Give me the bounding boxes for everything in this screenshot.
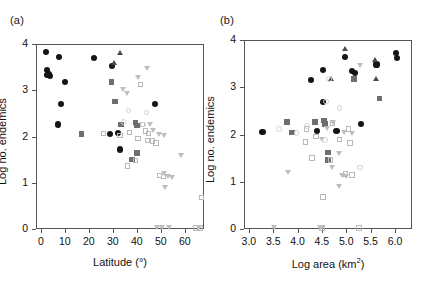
data-point-filled-square	[377, 96, 383, 102]
y-axis-tick	[32, 183, 36, 184]
y-axis-tick-label: 4	[6, 37, 28, 49]
x-axis-title: Log area (km2)	[280, 256, 376, 270]
data-point-filled-square	[312, 119, 318, 125]
data-point-open-circle	[323, 99, 329, 105]
x-axis-tick-label: 6.0	[379, 235, 411, 247]
data-point-open-triangle	[159, 225, 165, 230]
data-point-open-square	[347, 140, 352, 145]
data-point-open-triangle	[178, 153, 184, 158]
data-point-open-triangle	[162, 185, 168, 190]
data-point-open-square	[101, 131, 106, 136]
y-axis-tick	[240, 87, 244, 88]
y-axis-title: Log no. endemics	[204, 96, 216, 183]
y-axis-tick-label: 3	[214, 80, 236, 92]
y-axis-tick	[32, 137, 36, 138]
data-point-open-triangle	[336, 151, 342, 156]
data-point-open-square	[133, 158, 138, 163]
y-axis-tick-label: 4	[214, 33, 236, 45]
data-point-filled-circle	[44, 72, 50, 78]
data-point-filled-circle	[373, 61, 379, 67]
x-axis-tick	[65, 229, 66, 233]
y-axis-tick	[240, 135, 244, 136]
y-axis-tick	[240, 40, 244, 41]
data-point-open-square	[337, 137, 342, 142]
y-axis-tick-label: 0	[6, 222, 28, 234]
data-point-open-triangle	[330, 120, 336, 125]
x-axis-tick	[249, 229, 250, 233]
x-axis-tick	[113, 229, 114, 233]
data-point-filled-circle	[91, 55, 97, 61]
data-point-filled-triangle	[372, 57, 378, 62]
data-point-open-triangle	[271, 225, 277, 230]
data-point-filled-circle	[55, 121, 61, 127]
y-axis-tick	[32, 44, 36, 45]
data-point-open-triangle	[341, 130, 347, 135]
data-point-open-square	[313, 134, 318, 139]
data-point-filled-square	[79, 131, 85, 137]
y-axis-tick	[240, 182, 244, 183]
data-point-open-triangle	[166, 225, 172, 230]
x-axis-tick	[185, 229, 186, 233]
data-point-filled-circle	[333, 128, 339, 134]
data-point-filled-square	[112, 99, 118, 105]
data-point-open-triangle	[324, 126, 330, 131]
data-point-open-triangle	[319, 225, 325, 230]
data-point-filled-square	[134, 123, 140, 129]
data-point-open-circle	[322, 137, 328, 143]
data-point-open-square	[138, 82, 143, 87]
x-axis-tick	[41, 229, 42, 233]
data-point-filled-triangle	[117, 50, 123, 55]
data-point-filled-square	[109, 79, 115, 85]
y-axis-tick-label: 1	[214, 175, 236, 187]
data-point-filled-triangle	[373, 76, 379, 81]
data-point-filled-circle	[152, 101, 158, 107]
panel-b-label: (b)	[220, 14, 234, 26]
data-point-open-triangle	[336, 184, 342, 189]
x-axis-tick	[371, 229, 372, 233]
data-point-open-triangle	[357, 63, 363, 68]
x-axis-tick	[137, 229, 138, 233]
data-point-open-triangle	[196, 225, 202, 230]
data-point-open-square	[125, 163, 130, 168]
y-axis-tick-label: 3	[6, 83, 28, 95]
data-point-open-circle	[276, 126, 282, 132]
data-point-open-square	[303, 139, 308, 144]
data-point-filled-circle	[394, 55, 400, 61]
y-axis-tick	[240, 229, 244, 230]
y-axis-tick	[32, 229, 36, 230]
panel-b: (b) 012343.03.54.04.55.05.56.0Log area (…	[212, 0, 425, 306]
data-point-filled-square	[134, 150, 140, 156]
x-axis-tick	[346, 229, 347, 233]
data-point-open-square	[127, 130, 132, 135]
data-point-open-square	[356, 225, 361, 230]
data-point-open-triangle	[161, 133, 167, 138]
data-point-open-square	[349, 172, 354, 177]
x-axis-tick	[395, 229, 396, 233]
data-point-open-circle	[121, 119, 127, 125]
data-point-open-square	[117, 133, 122, 138]
data-point-open-circle	[140, 122, 146, 128]
data-point-filled-square	[284, 119, 290, 125]
data-point-open-circle	[337, 105, 343, 111]
data-point-open-triangle	[169, 175, 175, 180]
data-point-filled-circle	[308, 77, 314, 83]
y-axis-tick-label: 0	[214, 222, 236, 234]
data-point-open-triangle	[147, 122, 153, 127]
figure-container: (a) 012340102030405060Latitude (°)Log no…	[0, 0, 425, 306]
data-point-filled-square	[351, 76, 357, 82]
x-axis-title: Latitude (°)	[72, 256, 168, 268]
data-point-open-square	[328, 157, 333, 162]
data-point-open-square	[309, 155, 314, 160]
x-axis-tick	[89, 229, 90, 233]
data-point-open-square	[135, 136, 140, 141]
y-axis-title: Log no. endemics	[0, 98, 8, 185]
y-axis-tick	[32, 90, 36, 91]
data-point-open-triangle	[135, 75, 141, 80]
data-point-filled-circle	[117, 146, 123, 152]
data-point-filled-circle	[62, 79, 68, 85]
data-point-open-square	[320, 194, 325, 199]
data-point-filled-square	[325, 150, 331, 156]
data-point-open-triangle	[349, 131, 355, 136]
data-point-open-triangle	[329, 165, 335, 170]
x-axis-tick	[298, 229, 299, 233]
